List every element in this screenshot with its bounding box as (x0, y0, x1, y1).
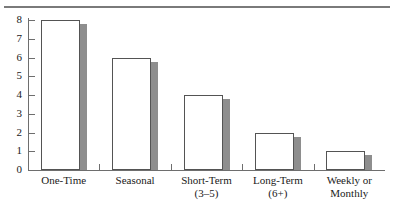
y-axis-tick (29, 151, 35, 152)
plot-area: 876543210 One-TimeSeasonalShort-Term(3–5… (0, 0, 394, 202)
bar (41, 20, 87, 170)
y-axis-tick (29, 76, 35, 77)
y-axis-tick-label: 4 (4, 89, 22, 100)
x-axis-category-label: One-Time (28, 174, 99, 187)
y-axis-tick-label: 6 (4, 52, 22, 63)
bar-body (326, 151, 365, 170)
y-axis-tick-label: 0 (4, 164, 22, 175)
category-label-line1: Short-Term (181, 174, 232, 186)
y-axis-tick (29, 114, 35, 115)
category-label-line2: (3–5) (171, 187, 242, 200)
bar-shadow (151, 62, 158, 171)
x-axis-line (28, 170, 385, 171)
y-axis-tick (29, 20, 35, 21)
y-axis-tick (29, 39, 35, 40)
category-label-line1: Seasonal (116, 174, 155, 186)
x-axis-category-label: Seasonal (99, 174, 170, 187)
y-axis-tick-label: 8 (4, 14, 22, 25)
bar-shadow (223, 99, 230, 170)
x-axis-tick (99, 164, 100, 170)
bar-body (255, 133, 294, 171)
y-axis-tick-label: 2 (4, 127, 22, 138)
bar-shadow (365, 155, 372, 170)
x-axis-tick (171, 164, 172, 170)
x-axis-category-label: Short-Term(3–5) (171, 174, 242, 200)
bar-body (112, 58, 151, 171)
bar (184, 95, 230, 170)
x-axis-tick (242, 164, 243, 170)
x-axis-category-label: Weekly orMonthly (314, 174, 385, 200)
x-axis-tick (314, 164, 315, 170)
bar (255, 133, 301, 171)
category-label-line1: One-Time (41, 174, 86, 186)
bar-body (184, 95, 223, 170)
y-axis-tick (29, 170, 35, 171)
category-label-line2: Monthly (314, 187, 385, 200)
y-axis-tick (29, 58, 35, 59)
y-axis-tick-label: 7 (4, 33, 22, 44)
category-label-line1: Weekly or (327, 174, 372, 186)
bar-shadow (80, 24, 87, 170)
y-axis-tick-label: 3 (4, 108, 22, 119)
bar (112, 58, 158, 171)
y-axis-tick (29, 95, 35, 96)
category-label-line2: (6+) (242, 187, 313, 200)
bar-body (41, 20, 80, 170)
y-axis-tick-label: 5 (4, 70, 22, 81)
category-label-line1: Long-Term (253, 174, 303, 186)
y-axis-tick (29, 133, 35, 134)
bar (326, 151, 372, 170)
bar-chart-figure: 876543210 One-TimeSeasonalShort-Term(3–5… (0, 0, 394, 202)
bar-shadow (294, 137, 301, 171)
x-axis-category-label: Long-Term(6+) (242, 174, 313, 200)
y-axis-tick-label: 1 (4, 145, 22, 156)
